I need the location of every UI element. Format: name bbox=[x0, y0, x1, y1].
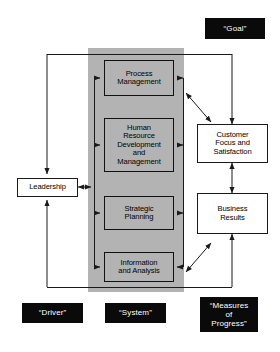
node-human-resource-development-and-management[interactable]: Human Resource Development and Managemen… bbox=[104, 118, 174, 172]
node-business-results-label: Business Results bbox=[215, 205, 249, 222]
node-information-and-analysis-label: Information and Analysis bbox=[116, 259, 161, 276]
wire-system-to-customer-focus-diagonal bbox=[186, 93, 211, 122]
tag-goal: “Goal” bbox=[205, 18, 265, 39]
tag-goal-label: “Goal” bbox=[224, 24, 247, 33]
tag-system: “System” bbox=[105, 303, 166, 323]
node-information-and-analysis[interactable]: Information and Analysis bbox=[104, 252, 174, 282]
tag-measures-of-progress: “Measures of Progress” bbox=[200, 297, 258, 332]
node-customer-focus-and-satisfaction[interactable]: Customer Focus and Satisfaction bbox=[197, 124, 268, 163]
node-process-management[interactable]: Process Management bbox=[104, 60, 174, 96]
node-strategic-planning-label: Strategic Planning bbox=[122, 205, 155, 222]
node-business-results[interactable]: Business Results bbox=[197, 193, 268, 234]
wire-system-to-business-results-diagonal bbox=[186, 243, 211, 272]
node-strategic-planning[interactable]: Strategic Planning bbox=[104, 196, 174, 230]
node-leadership[interactable]: Leadership bbox=[17, 178, 78, 197]
node-process-management-label: Process Management bbox=[115, 70, 162, 87]
node-leadership-label: Leadership bbox=[27, 183, 68, 192]
diagram-canvas: Process Management Human Resource Develo… bbox=[0, 0, 280, 352]
tag-measures-of-progress-label: “Measures of Progress” bbox=[210, 301, 249, 329]
tag-driver: “Driver” bbox=[22, 303, 83, 323]
node-customer-focus-and-satisfaction-label: Customer Focus and Satisfaction bbox=[211, 131, 253, 157]
tag-system-label: “System” bbox=[119, 308, 152, 317]
tag-driver-label: “Driver” bbox=[39, 308, 66, 317]
node-human-resource-development-and-management-label: Human Resource Development and Managemen… bbox=[115, 124, 163, 167]
